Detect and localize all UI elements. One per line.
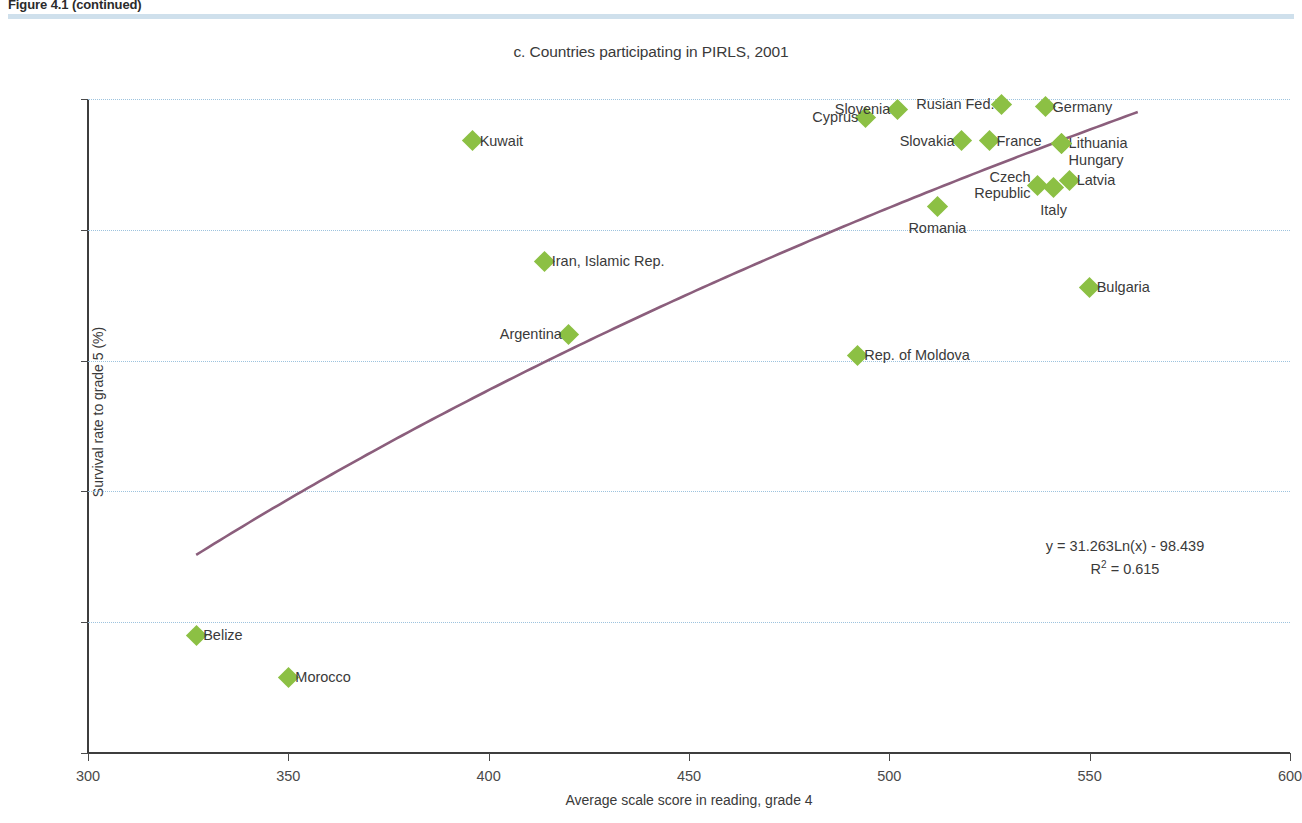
data-label-slovakia: Slovakia <box>900 133 955 149</box>
data-label-belize: Belize <box>203 627 243 643</box>
data-label-bulgaria: Bulgaria <box>1097 279 1150 295</box>
y-tick-mark-90 <box>81 361 88 362</box>
data-label-lithuania: Lithuania <box>1069 135 1128 151</box>
data-label-kuwait: Kuwait <box>480 133 524 149</box>
chart-title: c. Countries participating in PIRLS, 200… <box>0 43 1302 61</box>
figure-caption: Figure 4.1 (continued) <box>8 0 142 12</box>
data-label-iran-islamic-rep: Iran, Islamic Rep. <box>552 253 665 269</box>
data-label-romania: Romania <box>908 220 966 236</box>
x-tick-label-300: 300 <box>58 768 118 784</box>
data-label-argentina: Argentina <box>500 326 562 342</box>
x-tick-label-600: 600 <box>1260 768 1302 784</box>
data-label-france: France <box>997 133 1042 149</box>
x-tick-mark-350 <box>288 753 289 761</box>
x-tick-label-350: 350 <box>258 768 318 784</box>
x-tick-label-450: 450 <box>659 768 719 784</box>
y-tick-mark-80 <box>81 622 88 623</box>
regression-annotation: y = 31.263Ln(x) - 98.439 R2 = 0.615 <box>1010 535 1240 581</box>
header-divider <box>8 14 1294 19</box>
y-tick-mark-100 <box>81 99 88 100</box>
x-tick-mark-550 <box>1090 753 1091 761</box>
data-label-czech-republic: CzechRepublic <box>974 170 1030 200</box>
x-tick-label-400: 400 <box>459 768 519 784</box>
r-squared: R2 = 0.615 <box>1010 557 1240 580</box>
r-squared-value: = 0.615 <box>1107 561 1160 577</box>
trendline <box>88 99 1290 753</box>
data-label-hungary: Hungary <box>1069 152 1124 168</box>
r-squared-symbol: R <box>1091 561 1101 577</box>
data-label-italy: Italy <box>1040 202 1067 218</box>
data-label-rep-of-moldova: Rep. of Moldova <box>864 347 970 363</box>
x-tick-mark-300 <box>88 753 89 761</box>
plot-area: 7580859095100 300350400450500550600 Beli… <box>88 99 1290 753</box>
x-tick-label-500: 500 <box>859 768 919 784</box>
figure-page: Figure 4.1 (continued) c. Countries part… <box>0 0 1302 823</box>
x-tick-mark-600 <box>1290 753 1291 761</box>
x-tick-mark-400 <box>489 753 490 761</box>
data-label-morocco: Morocco <box>295 669 351 685</box>
data-label-slovenia: Slovenia <box>835 101 891 117</box>
data-label-rusian-fed: Rusian Fed. <box>916 96 994 112</box>
data-label-latvia: Latvia <box>1077 172 1116 188</box>
x-axis-label: Average scale score in reading, grade 4 <box>88 792 1290 808</box>
y-tick-mark-85 <box>81 491 88 492</box>
y-tick-mark-75 <box>81 753 88 754</box>
x-tick-label-550: 550 <box>1060 768 1120 784</box>
x-tick-mark-450 <box>689 753 690 761</box>
data-label-germany: Germany <box>1053 99 1113 115</box>
x-tick-mark-500 <box>889 753 890 761</box>
regression-equation: y = 31.263Ln(x) - 98.439 <box>1010 535 1240 557</box>
y-tick-mark-95 <box>81 230 88 231</box>
